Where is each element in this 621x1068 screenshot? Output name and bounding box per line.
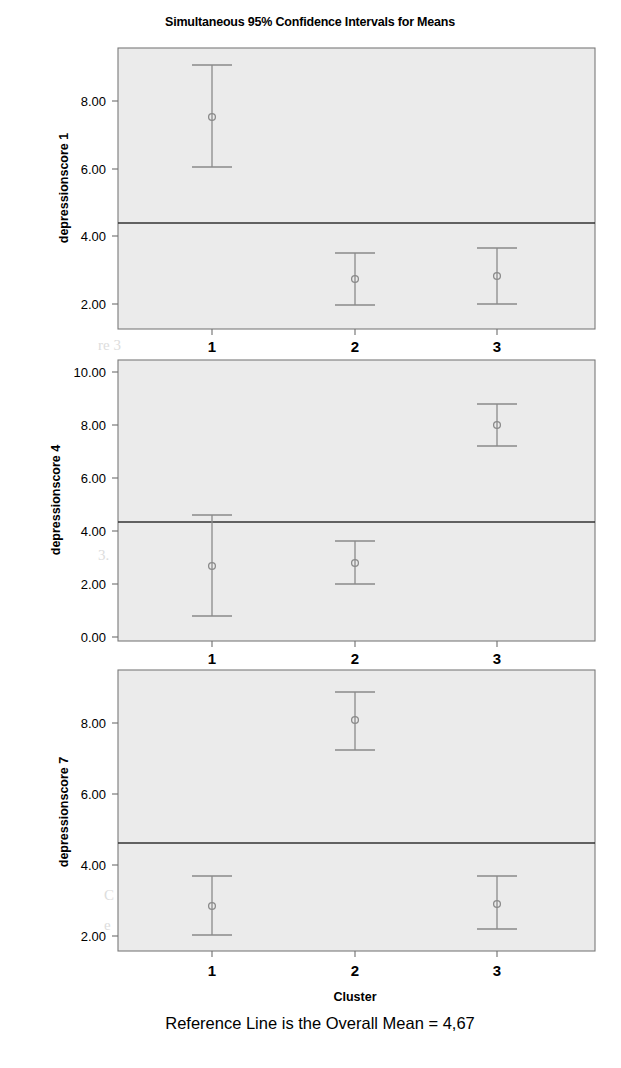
panel-2-ytick-label-0: 0.00 (81, 630, 106, 645)
panel-2-plot-background (118, 360, 595, 641)
panel-2-xtick-label-2: 2 (351, 650, 359, 667)
panel-3-ytick-label-4: 4.00 (81, 858, 106, 873)
panel-2-y-ticks (112, 372, 118, 637)
panel-3-y-axis-title: depressionscore 7 (57, 757, 71, 868)
panel-1-ytick-label-6: 6.00 (81, 162, 106, 177)
panel-3-y-ticks (112, 723, 118, 936)
panel-1-y-ticks (112, 101, 118, 304)
panel-3-xtick-label-1: 1 (208, 962, 216, 979)
panel-1-y-axis-title: depressionscore 1 (57, 133, 71, 244)
panel-1-xtick-label-1: 1 (208, 338, 216, 355)
x-axis-title: Cluster (333, 990, 376, 1004)
panel-2-ytick-label-10: 10.00 (73, 365, 106, 380)
reference-line-note: Reference Line is the Overall Mean = 4,6… (165, 1014, 475, 1032)
confidence-interval-chart-figure: ugh essing of thought-like ing on the bo… (0, 0, 621, 1068)
panel-2-xtick-label-1: 1 (208, 650, 216, 667)
panel-2-y-axis-title: depressionscore 4 (49, 445, 63, 556)
panel-2-x-ticks (212, 641, 497, 647)
panel-3-ytick-label-8: 8.00 (81, 716, 106, 731)
panel-1-ytick-label-2: 2.00 (81, 297, 106, 312)
svg-text:re 3: re 3 (98, 337, 121, 353)
panel-2-ytick-label-6: 6.00 (81, 471, 106, 486)
panel-3-ytick-label-2: 2.00 (81, 929, 106, 944)
svg-text:3.: 3. (98, 547, 109, 563)
panel-2-ytick-label-2: 2.00 (81, 577, 106, 592)
panel-depressionscore-7: 8.00 6.00 4.00 2.00 depressionscore 7 (57, 670, 595, 979)
chart-svg: ugh essing of thought-like ing on the bo… (0, 0, 621, 1068)
panel-1-x-ticks (212, 329, 497, 335)
panel-3-plot-background (118, 670, 595, 951)
panel-2-ytick-label-4: 4.00 (81, 524, 106, 539)
chart-title: Simultaneous 95% Confidence Intervals fo… (165, 15, 455, 29)
panel-1-ytick-label-8: 8.00 (81, 94, 106, 109)
panel-3-xtick-label-3: 3 (493, 962, 501, 979)
panel-depressionscore-4: 10.00 8.00 6.00 4.00 2.00 0.00 depressio… (49, 360, 595, 667)
svg-text:C: C (104, 887, 114, 903)
panel-2-ytick-label-8: 8.00 (81, 418, 106, 433)
panel-2-xtick-label-3: 3 (493, 650, 501, 667)
panel-1-ytick-label-4: 4.00 (81, 229, 106, 244)
panel-1-plot-background (118, 48, 595, 329)
panel-1-xtick-label-3: 3 (493, 338, 501, 355)
panel-3-x-ticks (212, 951, 497, 957)
panel-3-ytick-label-6: 6.00 (81, 787, 106, 802)
panel-3-xtick-label-2: 2 (351, 962, 359, 979)
panel-1-xtick-label-2: 2 (351, 338, 359, 355)
panel-depressionscore-1: 8.00 6.00 4.00 2.00 depressionscore 1 (57, 48, 595, 355)
